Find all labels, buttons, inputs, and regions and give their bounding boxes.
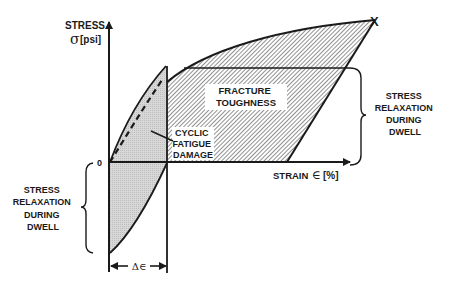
fracture-toughness-label: FRACTURE TOUGHNESS bbox=[216, 85, 276, 108]
cyclic-fatigue-damage-label: CYCLIC FATIGUE DAMAGE bbox=[173, 128, 214, 160]
right-brace bbox=[350, 68, 366, 165]
cyclic-fatigue-region-lower bbox=[110, 163, 167, 253]
origin-label: 0 bbox=[97, 158, 102, 168]
stress-strain-diagram: X STRESS σ [psi] STRAIN ∈ [%] 0 FRACTURE… bbox=[0, 0, 450, 285]
left-brace bbox=[81, 163, 93, 253]
left-dwell-label: STRESS RELAXATION DURING DWELL bbox=[13, 185, 73, 232]
x-axis-unit: [%] bbox=[323, 170, 339, 181]
delta-strain-label: Δ∈ bbox=[132, 261, 147, 272]
right-dwell-label: STRESS RELAXATION DURING DWELL bbox=[375, 91, 435, 137]
fracture-mark: X bbox=[370, 14, 379, 29]
cyclic-fatigue-region-upper bbox=[110, 66, 167, 162]
y-axis-symbol: σ bbox=[70, 31, 80, 47]
x-axis-title: STRAIN bbox=[273, 170, 309, 181]
x-axis-symbol: ∈ bbox=[312, 168, 321, 182]
y-axis-unit: [psi] bbox=[80, 34, 101, 45]
y-axis-title: STRESS bbox=[65, 20, 105, 31]
